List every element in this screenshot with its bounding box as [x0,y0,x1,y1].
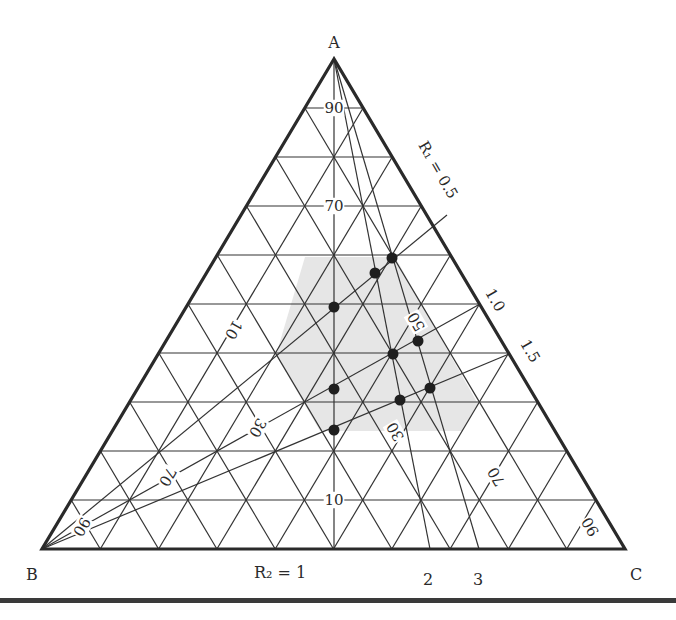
r2-label: 3 [471,568,485,589]
data-point [329,384,340,395]
data-point [395,395,406,406]
svg-text:3: 3 [473,570,483,589]
a-scale-tick-label: 70 [324,197,345,215]
data-point [388,349,399,360]
a-scale-tick-label: 90 [324,99,345,117]
data-point [387,253,398,264]
a-scale-tick-label: 10 [324,491,345,509]
ternary-diagram: 9070101030709050307090R₁ = 0.51.01.5R₂ =… [0,0,676,620]
vertex-label-b: B [26,565,38,584]
data-point [425,383,436,394]
svg-text:70: 70 [155,464,180,490]
data-point [413,336,424,347]
svg-text:10: 10 [221,317,246,343]
bottom-rule [0,598,676,603]
vertex-label-a: A [327,33,340,52]
svg-text:90: 90 [578,514,603,540]
r2-label: R₂ = 1 [248,561,312,582]
svg-text:2: 2 [423,570,433,589]
r1-label: 1.5 [514,332,547,370]
svg-text:R₂ = 1: R₂ = 1 [254,563,306,582]
b-scale-tick-label: 10 [221,316,247,343]
data-point [370,268,381,279]
r1-label: R₁ = 0.5 [411,130,468,208]
svg-text:70: 70 [324,197,343,215]
data-point [329,425,340,436]
r2-label: 2 [421,568,435,589]
b-scale-tick-label: 70 [155,463,181,490]
svg-text:90: 90 [324,99,343,117]
vertex-label-c: C [630,565,642,584]
c-scale-tick-label: 90 [577,513,603,540]
data-point [329,302,340,313]
svg-text:10: 10 [324,491,343,509]
